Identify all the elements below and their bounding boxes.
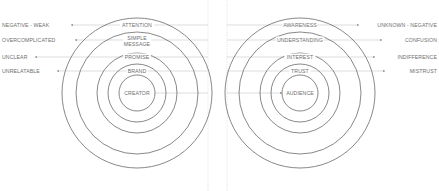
ring-label-attention: ATTENTION <box>122 22 152 28</box>
ring-label-awareness: AWARENESS <box>283 22 317 28</box>
ring-label-promise: PROMISE <box>125 54 150 60</box>
ring-label-brand: BRAND <box>128 68 147 74</box>
outcome-label-unknown-negative: UNKNOWN - NEGATIVE <box>377 22 437 28</box>
audience-outcome-labels: UNKNOWN - NEGATIVECONFUSIONINDIFFERENCEM… <box>377 22 437 74</box>
ring-label-simple-message-line1: SIMPLE <box>127 35 147 41</box>
outcome-label-indifference: INDIFFERENCE <box>397 54 437 60</box>
creator-ring-labels: ATTENTIONSIMPLEMESSAGEPROMISEBRANDCREATO… <box>120 22 155 96</box>
outcome-label-mistrust: MISTRUST <box>410 68 438 74</box>
ring-label-understanding: UNDERSTANDING <box>277 37 323 43</box>
ring-label-creator: CREATOR <box>124 90 150 96</box>
outcome-label-negative-weak: NEGATIVE - WEAK <box>2 22 50 28</box>
creator-outcome-labels: NEGATIVE - WEAKOVERCOMPLICATEDUNCLEARUNR… <box>2 22 55 74</box>
outcome-label-unrelatable: UNRELATABLE <box>2 68 40 74</box>
center-dividers <box>208 0 227 191</box>
audience-ring-labels: AWARENESSUNDERSTANDINGINTERESTTRUSTAUDIE… <box>276 22 324 96</box>
ring-label-audience: AUDIENCE <box>286 90 314 96</box>
outcome-label-overcomplicated: OVERCOMPLICATED <box>2 37 55 43</box>
guide-lines <box>35 25 385 93</box>
ring-label-trust: TRUST <box>291 68 310 74</box>
outcome-label-unclear: UNCLEAR <box>2 54 28 60</box>
ring-label-interest: INTEREST <box>287 54 314 60</box>
communication-rings-diagram: ATTENTIONSIMPLEMESSAGEPROMISEBRANDCREATO… <box>0 0 439 191</box>
outcome-label-confusion: CONFUSION <box>405 37 437 43</box>
ring-label-simple-message-line2: MESSAGE <box>124 41 151 47</box>
